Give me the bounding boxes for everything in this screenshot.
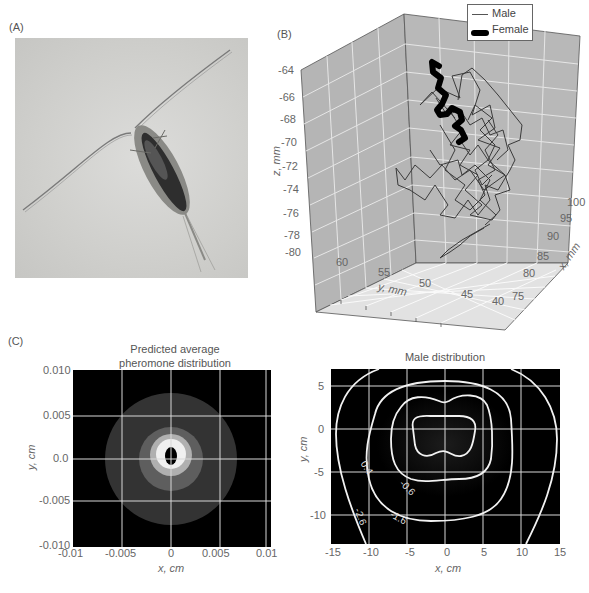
x-tick: 0.01 [256,547,277,559]
y-axis-label: y, cm [297,437,309,462]
x-tick: 80 [523,267,535,279]
x-axis-label: x, cm [158,562,184,574]
x-tick: -5 [405,546,415,558]
x-tick: 100 [567,196,585,208]
y-tick: 50 [419,277,431,289]
x-tick: 5 [481,546,487,558]
y-tick: 0 [318,423,324,435]
y-axis-label: y, cm [25,445,37,470]
y-tick: 55 [378,266,390,278]
z-tick: -78 [284,229,300,241]
z-axis-label: z, mm [270,146,282,176]
z-tick: -72 [282,160,298,172]
x-tick: 15 [554,546,566,558]
legend-female-label: Female [492,23,529,35]
y-tick: 0.0 [53,452,68,464]
legend-box: Male Female [467,4,533,41]
y-tick: -10 [310,509,326,521]
x-tick: 90 [547,230,559,242]
contour-title: Male distribution [370,350,520,364]
x-tick: 0 [444,546,450,558]
legend-male-swatch [472,14,488,15]
y-tick: -5 [314,466,324,478]
x-tick: 0 [168,547,174,559]
x-tick: -0.005 [105,547,136,559]
legend-female-swatch [471,30,489,36]
pheromone-heatmap [73,370,271,547]
y-tick: 60 [336,256,348,268]
x-tick: -10 [363,546,379,558]
z-tick: -64 [278,64,294,76]
x-tick: 75 [512,290,524,302]
legend-male-label: Male [492,7,516,19]
z-tick: -66 [279,91,295,103]
z-tick: -80 [285,246,301,258]
y-tick: 0.005 [43,409,71,421]
z-tick: -68 [280,113,296,125]
y-tick: 40 [492,295,504,307]
heatmap-title: Predicted average pheromone distribution [100,342,250,370]
z-tick: -76 [283,207,299,219]
x-tick: 0.005 [202,547,230,559]
x-tick: 95 [560,212,572,224]
x-tick: -0.01 [58,547,83,559]
y-tick: 45 [461,288,473,300]
x-axis-label: x, cm [435,562,461,574]
y-tick: 5 [318,380,324,392]
y-tick: 0.010 [43,364,71,376]
x-tick: 10 [516,546,528,558]
x-tick: -15 [325,546,341,558]
z-tick: -74 [283,183,299,195]
y-tick: -0.005 [39,494,70,506]
x-tick: 85 [537,250,549,262]
panel-label-c: (C) [8,335,23,347]
z-tick: -70 [281,136,297,148]
